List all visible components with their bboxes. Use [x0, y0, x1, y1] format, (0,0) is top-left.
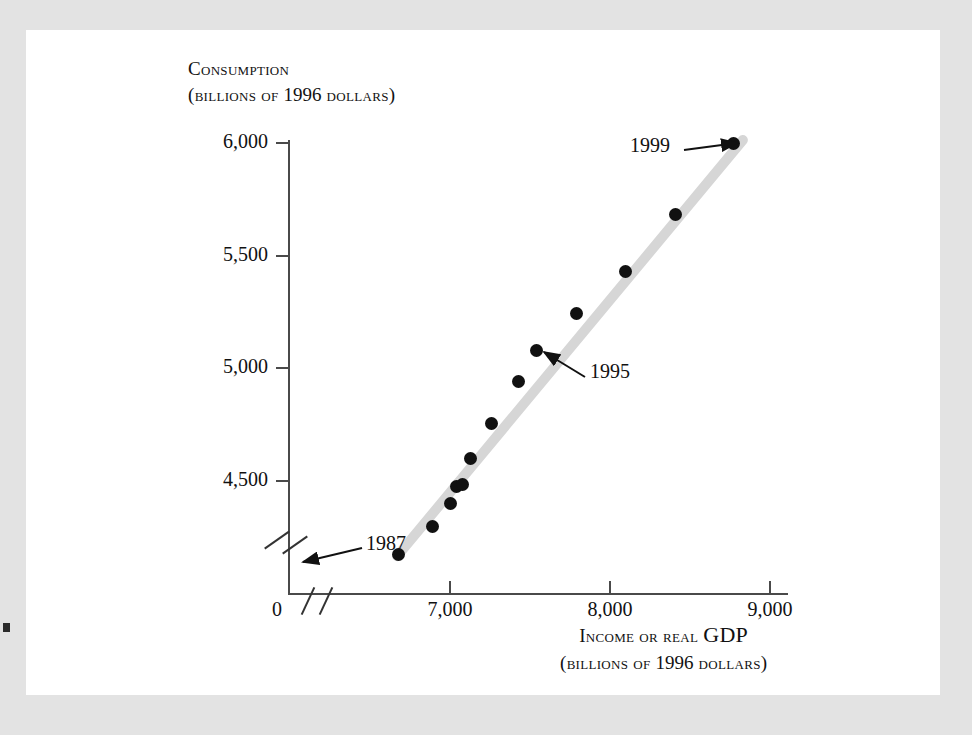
x-axis-tick-label: 9,000: [725, 598, 815, 621]
annotation-label-1995: 1995: [590, 360, 630, 383]
x-axis-title-line1-prefix: Income or real: [579, 625, 703, 646]
y-axis-tick: [276, 480, 289, 482]
x-axis-title-line2-year: 1996: [656, 652, 694, 673]
x-axis-title-line2-prefix: (billions of: [560, 652, 656, 673]
y-axis-tick-label: 5,000: [178, 355, 268, 378]
data-point: [727, 137, 740, 150]
data-point: [669, 208, 682, 221]
y-axis-tick-label: 5,500: [178, 243, 268, 266]
x-axis-tick: [609, 581, 611, 594]
annotation-label-1999: 1999: [630, 134, 670, 157]
x-axis-title: Income or real GDP (billions of 1996 dol…: [560, 620, 767, 675]
trend-line: [390, 133, 750, 563]
y-axis-title-line2-prefix: (billions of: [188, 84, 284, 105]
y-axis-title-line1: Consumption: [188, 56, 395, 82]
x-axis-title-line2-suffix: dollars): [694, 652, 768, 673]
data-point: [456, 478, 469, 491]
y-axis-title-line2-year: 1996: [284, 84, 322, 105]
x-axis-title-line1-suffix: GDP: [703, 622, 748, 647]
x-axis-tick: [769, 581, 771, 594]
x-axis-tick-label: 8,000: [565, 598, 655, 621]
data-point: [619, 265, 632, 278]
x-axis-tick-label: 7,000: [405, 598, 495, 621]
annotation-leaders: [0, 0, 972, 735]
figure-root: Consumption (billions of 1996 dollars) I…: [0, 0, 972, 735]
data-point: [444, 497, 457, 510]
y-axis-tick: [276, 367, 289, 369]
data-point: [426, 520, 439, 533]
y-axis-title: Consumption (billions of 1996 dollars): [188, 56, 395, 107]
data-point: [530, 344, 543, 357]
y-axis-title-line2-suffix: dollars): [322, 84, 396, 105]
x-axis-tick: [449, 581, 451, 594]
y-axis-tick-label: 4,500: [178, 468, 268, 491]
y-axis-tick: [276, 142, 289, 144]
y-axis-break-slash-2: [282, 536, 308, 555]
y-axis-tick: [276, 255, 289, 257]
data-point: [512, 375, 525, 388]
annotation-label-1987: 1987: [366, 532, 406, 555]
y-axis-break-slash-1: [264, 531, 290, 550]
x-axis-line: [288, 593, 788, 595]
y-axis-tick-label: 6,000: [178, 130, 268, 153]
leader-line-1987: [303, 548, 362, 562]
scatter-chart: Consumption (billions of 1996 dollars) I…: [0, 0, 972, 735]
data-point: [570, 307, 583, 320]
